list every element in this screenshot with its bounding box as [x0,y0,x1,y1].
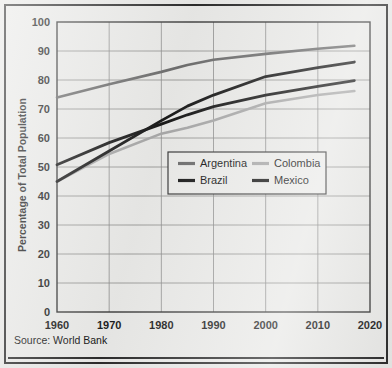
line-chart: 1009080706050403020100 19601970198019902… [0,0,392,368]
y-tick-label: 40 [38,190,50,202]
chart-figure: 1009080706050403020100 19601970198019902… [0,0,392,368]
y-axis-tick-labels: 1009080706050403020100 [32,16,50,318]
x-tick-label: 1990 [201,319,225,331]
y-axis-title: Percentage of Total Population [16,98,28,252]
y-tick-label: 80 [38,74,50,86]
plot-container: 1009080706050403020100 19601970198019902… [0,0,392,368]
x-tick-label: 1980 [149,319,173,331]
chart-legend: ArgentinaColombiaBrazilMexico [168,152,326,194]
y-tick-label: 50 [38,161,50,173]
legend-label-mexico: Mexico [274,174,309,186]
y-tick-label: 0 [44,306,50,318]
y-tick-label: 90 [38,45,50,57]
legend-label-brazil: Brazil [200,174,228,186]
x-tick-label: 1960 [45,319,69,331]
series-line-argentina [57,46,354,98]
x-tick-label: 2000 [253,319,277,331]
y-tick-label: 60 [38,132,50,144]
source-note: Source: World Bank [14,334,108,346]
y-tick-label: 20 [38,248,50,260]
x-tick-label: 2010 [306,319,330,331]
y-tick-label: 100 [32,16,50,28]
legend-label-argentina: Argentina [200,157,248,169]
y-tick-label: 30 [38,219,50,231]
legend-label-colombia: Colombia [274,157,321,169]
y-tick-label: 10 [38,277,50,289]
y-tick-label: 70 [38,103,50,115]
x-tick-label: 2020 [358,319,382,331]
x-axis-tick-labels: 1960197019801990200020102020 [45,319,382,331]
x-tick-label: 1970 [97,319,121,331]
